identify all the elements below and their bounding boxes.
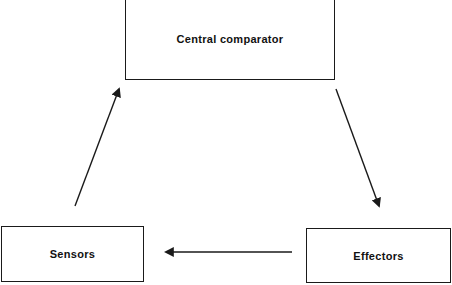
arrow-central-to-effectors (336, 89, 379, 206)
feedback-loop-diagram: Central comparator Sensors Effectors (0, 0, 452, 285)
arrow-sensors-to-central (75, 89, 119, 206)
arrows-layer (0, 0, 452, 285)
